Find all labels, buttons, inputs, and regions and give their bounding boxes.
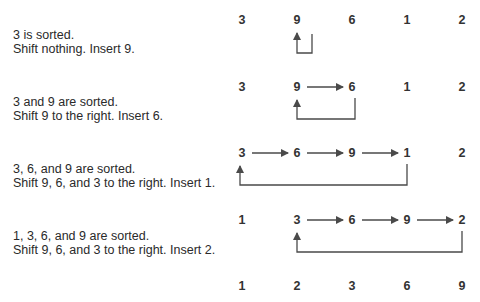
- insert-arrow-icon: [240, 164, 407, 185]
- insert-arrow-icon: [297, 33, 312, 53]
- insert-arrow-icon: [297, 231, 462, 252]
- insert-arrow-icon: [297, 98, 355, 119]
- arrows-layer: [0, 0, 480, 302]
